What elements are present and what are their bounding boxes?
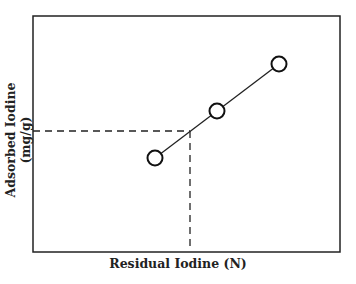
chart [0, 0, 356, 284]
x-axis-label: Residual Iodine (N) [0, 256, 356, 271]
data-point [272, 57, 287, 72]
y-axis-label: Adsorbed Iodine (mg/g) [3, 60, 33, 220]
data-point [210, 104, 225, 119]
data-point [148, 151, 163, 166]
